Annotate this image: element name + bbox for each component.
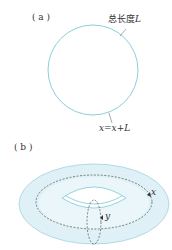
identification-label: x=x+L: [99, 123, 130, 133]
diagram-canvas: [0, 0, 172, 250]
identification-leader-line: [109, 113, 112, 123]
y-coordinate-label: y: [105, 211, 110, 221]
x-coordinate-label: x: [151, 187, 156, 197]
length-leader-line: [120, 29, 126, 36]
total-length-label: 总长度L: [108, 12, 141, 25]
total-length-text: 总长度: [108, 14, 135, 24]
panel-b-label: ( b ): [14, 142, 33, 152]
panel-a-label: ( a ): [32, 12, 50, 22]
length-variable: L: [135, 14, 141, 24]
circle-a: [48, 25, 138, 115]
